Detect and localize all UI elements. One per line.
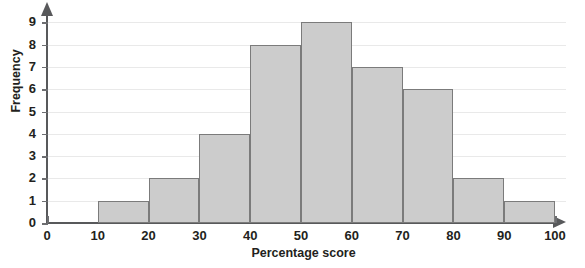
x-axis-tick-label: 50 — [281, 228, 321, 243]
x-axis-tick-label: 90 — [484, 228, 524, 243]
y-axis-tick — [42, 156, 48, 158]
y-axis-tick-label: 9 — [14, 14, 36, 29]
y-axis-tick-label: 4 — [14, 126, 36, 141]
y-axis-tick-label: 3 — [14, 148, 36, 163]
x-axis-tick-label: 40 — [230, 228, 270, 243]
y-axis-tick — [42, 112, 48, 114]
y-axis-tick-label: 5 — [14, 104, 36, 119]
x-axis-tick-label: 10 — [78, 228, 118, 243]
x-axis-tick-label: 0 — [27, 228, 67, 243]
histogram-bar — [352, 67, 403, 223]
y-axis-tick — [42, 178, 48, 180]
histogram-bar — [98, 201, 149, 223]
histogram-bar — [453, 178, 504, 223]
y-axis-tick-label: 1 — [14, 193, 36, 208]
histogram-bar — [250, 45, 301, 223]
histogram-bar — [301, 22, 352, 223]
y-axis-tick — [42, 45, 48, 47]
y-axis-tick-label: 6 — [14, 81, 36, 96]
x-axis-tick — [555, 216, 557, 223]
y-axis-tick — [42, 22, 48, 24]
x-axis-tick-label: 70 — [383, 228, 423, 243]
x-axis-tick-label: 80 — [433, 228, 473, 243]
y-axis-tick — [42, 89, 48, 91]
x-axis-title-text: Percentage score — [229, 246, 355, 260]
x-axis-tick-label: 20 — [129, 228, 169, 243]
x-axis-tick-label: 100 — [535, 228, 575, 243]
histogram-chart: Frequency 0123456789 0102030405060708090… — [0, 0, 585, 268]
x-axis-tick — [47, 216, 49, 223]
histogram-bar — [199, 134, 250, 223]
histogram-bar — [504, 201, 555, 223]
x-axis-tick-label: 60 — [332, 228, 372, 243]
y-axis-arrow-icon — [41, 2, 53, 16]
y-axis-tick — [42, 223, 48, 225]
y-axis-tick-label: 8 — [14, 37, 36, 52]
histogram-bar — [403, 89, 454, 223]
x-axis-tick-label: 30 — [179, 228, 219, 243]
y-axis-tick — [42, 67, 48, 69]
y-axis-tick — [42, 201, 48, 203]
histogram-bar — [149, 178, 200, 223]
y-axis-tick — [42, 134, 48, 136]
y-axis-tick-label: 7 — [14, 59, 36, 74]
y-axis-tick-label: 2 — [14, 170, 36, 185]
x-axis-title: Percentage score — [0, 246, 585, 260]
